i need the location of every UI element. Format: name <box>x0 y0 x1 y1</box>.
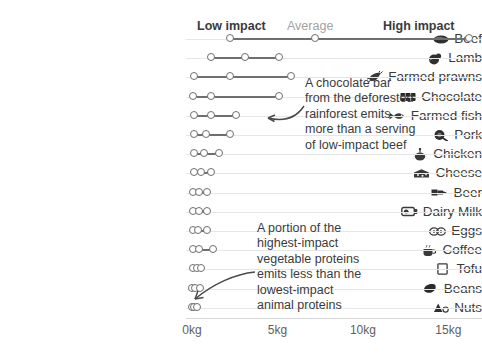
marker-low-impact <box>189 92 197 100</box>
data-row-cheese <box>186 164 482 182</box>
marker-high-impact <box>209 245 217 253</box>
marker-low-impact <box>190 72 198 80</box>
marker-high-impact <box>465 34 473 42</box>
data-row-beer <box>186 184 482 202</box>
marker-average <box>241 53 249 61</box>
marker-average <box>207 111 215 119</box>
marker-average <box>195 245 203 253</box>
data-row-dairy-milk <box>186 203 482 221</box>
range-connector <box>193 96 279 98</box>
marker-low-impact <box>226 34 234 42</box>
marker-average <box>226 72 234 80</box>
emissions-chart: Low impact Average High impact BeefLambF… <box>0 0 482 361</box>
range-connector <box>194 134 230 136</box>
marker-average <box>195 207 203 215</box>
range-connector <box>194 76 291 78</box>
marker-high-impact <box>287 72 295 80</box>
marker-average <box>200 149 208 157</box>
marker-average <box>197 168 205 176</box>
chocolate-annotation: A chocolate bar from the deforested rain… <box>305 76 475 153</box>
marker-high-impact <box>193 303 201 311</box>
marker-high-impact <box>203 226 211 234</box>
vegetable-protein-annotation: A portion of the highest-impact vegetabl… <box>257 221 437 313</box>
x-tick-15kg: 15kg <box>435 323 461 337</box>
marker-high-impact <box>275 92 283 100</box>
x-axis: 0kg5kg10kg15kg <box>186 318 482 342</box>
marker-average <box>207 92 215 100</box>
data-row-lamb <box>186 49 482 67</box>
marker-high-impact <box>226 130 234 138</box>
range-connector <box>230 38 469 40</box>
marker-low-impact <box>207 53 215 61</box>
axis-line <box>186 318 482 319</box>
marker-average <box>311 34 319 42</box>
marker-high-impact <box>203 207 211 215</box>
marker-high-impact <box>207 168 215 176</box>
marker-low-impact <box>190 130 198 138</box>
marker-high-impact <box>196 284 204 292</box>
marker-low-impact <box>190 149 198 157</box>
data-row-beef <box>186 30 482 48</box>
marker-high-impact <box>232 111 240 119</box>
marker-average <box>194 226 202 234</box>
x-tick-0kg: 0kg <box>182 323 201 337</box>
x-tick-5kg: 5kg <box>268 323 287 337</box>
marker-high-impact <box>203 188 211 196</box>
marker-high-impact <box>275 53 283 61</box>
x-tick-10kg: 10kg <box>350 323 376 337</box>
marker-high-impact <box>197 264 205 272</box>
marker-average <box>202 130 210 138</box>
marker-average <box>195 188 203 196</box>
marker-high-impact <box>215 149 223 157</box>
marker-low-impact <box>190 111 198 119</box>
range-connector <box>194 115 237 117</box>
